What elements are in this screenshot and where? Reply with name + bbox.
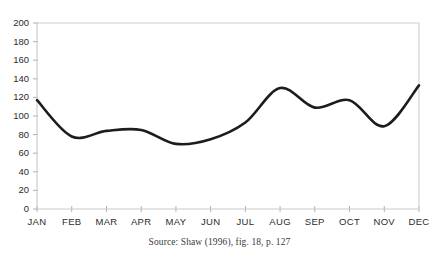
source-caption: Source: Shaw (1996), fig. 18, p. 127 <box>0 237 439 247</box>
x-tick-label: FEB <box>62 216 81 227</box>
y-tick-label: 200 <box>13 17 29 28</box>
y-tick-label: 40 <box>18 166 29 177</box>
x-tick-label: AUG <box>269 216 291 227</box>
x-tick-label: DEC <box>409 216 430 227</box>
x-tick-label: MAY <box>166 216 187 227</box>
y-tick-label: 0 <box>24 203 29 214</box>
x-axis-labels: JANFEBMARAPRMAYJUNJULAUGSEPOCTNOVDEC <box>28 216 430 227</box>
data-series-line <box>37 85 419 144</box>
y-tick-label: 120 <box>13 91 29 102</box>
x-tick-label: NOV <box>374 216 396 227</box>
y-tick-label: 20 <box>18 184 29 195</box>
y-tick-label: 80 <box>18 129 29 140</box>
x-tick-label: JAN <box>28 216 47 227</box>
figure-container: 020406080100120140160180200 JANFEBMARAPR… <box>0 0 439 262</box>
x-tick-label: JUL <box>236 216 254 227</box>
y-tick-label: 140 <box>13 73 29 84</box>
x-tick-label: JUN <box>201 216 220 227</box>
x-tick-label: OCT <box>339 216 360 227</box>
y-axis-labels: 020406080100120140160180200 <box>13 17 29 214</box>
y-tick-label: 60 <box>18 147 29 158</box>
x-tick-label: MAR <box>95 216 117 227</box>
line-chart: 020406080100120140160180200 JANFEBMARAPR… <box>0 0 439 240</box>
y-tick-label: 100 <box>13 110 29 121</box>
x-tick-label: APR <box>131 216 151 227</box>
x-tick-label: SEP <box>305 216 325 227</box>
y-tick-label: 180 <box>13 36 29 47</box>
y-tick-label: 160 <box>13 54 29 65</box>
